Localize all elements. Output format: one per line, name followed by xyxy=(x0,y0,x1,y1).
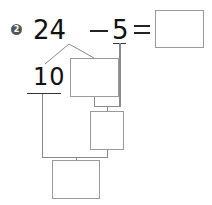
split-known-value: 10 xyxy=(33,64,66,90)
merge-connector-2 xyxy=(42,157,108,158)
intermediate-box[interactable] xyxy=(90,111,124,150)
split-known-connector xyxy=(42,94,43,158)
subtrahend-connector xyxy=(119,43,121,107)
final-answer-box[interactable] xyxy=(52,160,100,199)
split-unknown-box[interactable] xyxy=(70,58,119,97)
decomposition-lines xyxy=(0,0,212,205)
split-known-underline xyxy=(27,93,61,94)
